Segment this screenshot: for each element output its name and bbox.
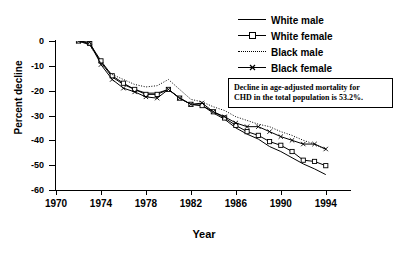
x-tick-label-1994: 1994	[306, 198, 346, 209]
y-tick	[49, 190, 55, 191]
y-tick-label--50: -50	[0, 161, 44, 170]
legend-label: White male	[271, 15, 324, 26]
annotation-line-1: Decline in age-adjusted mortality for	[234, 83, 387, 93]
legend-item-black-male[interactable]: Black male	[238, 44, 333, 60]
y-tick	[49, 165, 55, 166]
x-tick	[236, 190, 237, 195]
x-tick	[56, 190, 57, 195]
y-tick	[49, 116, 55, 117]
legend-swatch-icon	[238, 14, 266, 26]
x-tick	[191, 190, 192, 195]
x-tick	[326, 190, 327, 195]
x-tick	[281, 190, 282, 195]
data-point	[279, 143, 283, 147]
y-tick-label-0: 0	[0, 37, 44, 46]
legend-item-white-male[interactable]: White male	[238, 12, 333, 28]
legend-label: Black male	[271, 47, 323, 58]
annotation-box: Decline in age-adjusted mortality for CH…	[228, 78, 393, 108]
x-axis-line	[55, 190, 351, 191]
x-tick-label-1986: 1986	[216, 198, 256, 209]
x-tick-label-1978: 1978	[126, 198, 166, 209]
data-point	[290, 149, 294, 153]
data-point	[324, 147, 328, 151]
data-point	[267, 139, 271, 143]
data-point	[256, 133, 260, 137]
legend-swatch-icon	[238, 30, 266, 42]
data-point	[121, 81, 125, 85]
legend-swatch-icon	[238, 62, 266, 74]
data-point	[155, 92, 159, 96]
data-point	[267, 129, 271, 133]
x-tick	[146, 190, 147, 195]
y-tick	[49, 91, 55, 92]
x-tick-label-1974: 1974	[81, 198, 121, 209]
legend-item-black-female[interactable]: Black female	[238, 60, 333, 76]
legend-label: Black female	[271, 63, 332, 74]
data-point	[324, 164, 328, 168]
x-tick-label-1970: 1970	[36, 198, 76, 209]
data-point	[301, 158, 305, 162]
legend-swatch-icon	[238, 46, 266, 58]
x-tick	[101, 190, 102, 195]
x-tick-label-1982: 1982	[171, 198, 211, 209]
legend-item-white-female[interactable]: White female	[238, 28, 333, 44]
data-point	[312, 159, 316, 163]
y-tick	[49, 140, 55, 141]
chart-figure: 0-10-20-30-40-50-60 Percent decline 1970…	[0, 0, 408, 255]
chart-legend: White maleWhite femaleBlack maleBlack fe…	[238, 12, 333, 76]
data-point	[245, 130, 249, 134]
legend-label: White female	[271, 31, 333, 42]
annotation-line-2: CHD in the total population is 53.2%.	[234, 93, 387, 103]
x-axis-title: Year	[164, 228, 244, 240]
y-tick	[49, 41, 55, 42]
y-axis-title: Percent decline	[13, 52, 24, 144]
y-tick-label--60: -60	[0, 186, 44, 195]
x-tick-label-1990: 1990	[261, 198, 301, 209]
y-tick	[49, 66, 55, 67]
